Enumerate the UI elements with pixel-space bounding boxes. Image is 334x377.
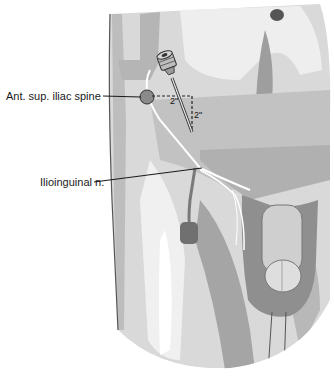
asis-label: Ant. sup. iliac spine: [6, 90, 101, 102]
vertical-dimension: 2": [194, 110, 202, 120]
nerve-bulb: [180, 222, 198, 244]
ilioinguinal-label: Ilioinguinal n.: [40, 176, 104, 188]
ilioinguinal-block-diagram: Ant. sup. iliac spine Ilioinguinal n. 2"…: [0, 0, 334, 377]
horizontal-dimension: 2": [170, 96, 178, 106]
anatomy-illustration: [0, 0, 334, 377]
iliac-spine-marker-icon: [140, 90, 154, 104]
umbilicus-icon: [270, 9, 284, 21]
